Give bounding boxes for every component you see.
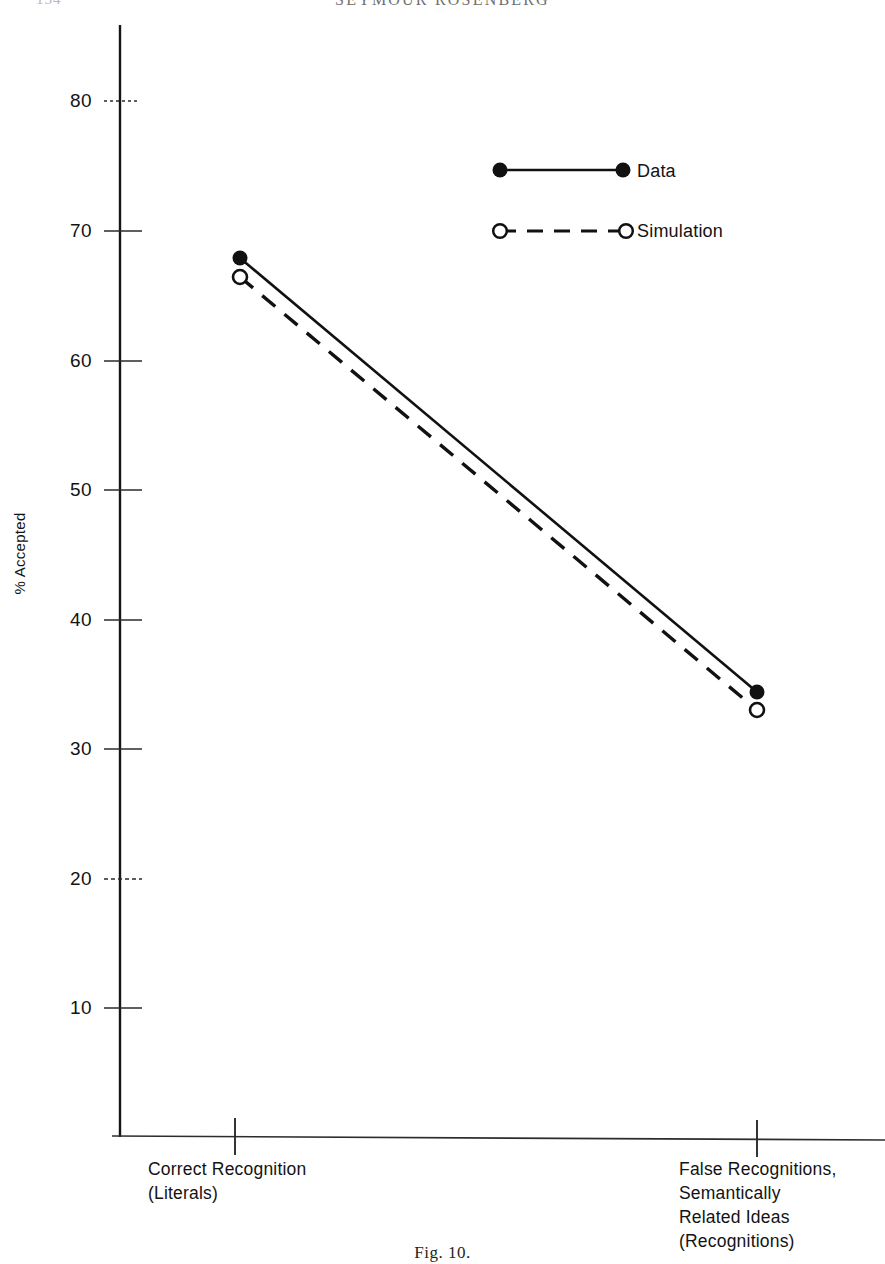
y-tick-label-50: 50 bbox=[46, 479, 92, 501]
chart-canvas bbox=[0, 0, 885, 1264]
series-data-point-0 bbox=[233, 251, 248, 266]
series-data bbox=[233, 251, 765, 700]
series-simulation bbox=[233, 270, 764, 717]
y-tick-label-80: 80 bbox=[46, 90, 92, 112]
y-tick-label-20: 20 bbox=[46, 868, 92, 890]
figure-10: 80 70 60 50 40 30 20 10 % Accepted Corre… bbox=[0, 0, 885, 1264]
legend-simulation-marker-right bbox=[619, 224, 633, 238]
series-data-line bbox=[240, 258, 757, 692]
series-simulation-point-0 bbox=[233, 270, 247, 284]
series-simulation-point-1 bbox=[750, 703, 764, 717]
y-tick-label-60: 60 bbox=[46, 350, 92, 372]
legend-data-marker-left bbox=[493, 163, 508, 178]
legend-label-data: Data bbox=[637, 161, 676, 182]
series-data-point-1 bbox=[750, 685, 765, 700]
x-category-label-false-recognitions: False Recognitions, Semantically Related… bbox=[679, 1157, 837, 1253]
x-axis-line bbox=[112, 1136, 885, 1140]
y-tick-label-10: 10 bbox=[46, 997, 92, 1019]
y-tick-marks bbox=[104, 101, 142, 1008]
y-tick-label-30: 30 bbox=[46, 738, 92, 760]
legend bbox=[493, 163, 633, 238]
legend-simulation-marker-left bbox=[493, 224, 507, 238]
y-axis-title: % Accepted bbox=[11, 499, 28, 609]
legend-label-simulation: Simulation bbox=[637, 221, 723, 242]
y-tick-label-70: 70 bbox=[46, 220, 92, 242]
legend-data-marker-right bbox=[616, 163, 631, 178]
series-simulation-line bbox=[240, 277, 757, 710]
y-tick-label-40: 40 bbox=[46, 609, 92, 631]
figure-caption: Fig. 10. bbox=[0, 1243, 885, 1263]
x-category-label-correct-recognition: Correct Recognition (Literals) bbox=[148, 1157, 306, 1205]
